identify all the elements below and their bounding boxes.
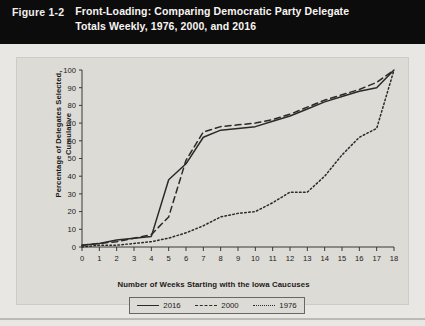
x-tick-label: 11 — [269, 254, 277, 263]
legend-label-2000: 2000 — [221, 301, 238, 310]
legend-swatch-dashed-icon — [195, 305, 217, 306]
y-tick-label: 50 — [68, 154, 76, 163]
x-tick-label: 6 — [184, 254, 188, 263]
legend-item-1976: 1976 — [253, 301, 296, 310]
y-tick-label: 60 — [68, 137, 76, 146]
x-tick-label: 14 — [320, 254, 328, 263]
x-tick-label: 12 — [286, 254, 294, 263]
x-tick-label: 9 — [236, 254, 240, 263]
line-chart: 0102030405060708090100012345678910111213… — [17, 58, 410, 306]
figure-title-line-1: Front-Loading: Comparing Democratic Part… — [75, 5, 349, 19]
y-tick-label: 20 — [68, 207, 76, 216]
y-tick-label: 80 — [68, 101, 76, 110]
legend-label-2016: 2016 — [163, 301, 180, 310]
legend-item-2016: 2016 — [137, 301, 180, 310]
figure-number: Figure 1-2 — [12, 5, 64, 18]
series-line-2016 — [82, 70, 394, 245]
x-tick-label: 15 — [338, 254, 346, 263]
legend-label-1976: 1976 — [279, 301, 296, 310]
x-tick-label: 2 — [115, 254, 119, 263]
x-tick-label: 16 — [355, 254, 363, 263]
x-tick-label: 10 — [251, 254, 259, 263]
legend-item-2000: 2000 — [195, 301, 238, 310]
chart-legend: 2016 2000 1976 — [129, 297, 305, 314]
page-divider — [0, 318, 425, 320]
x-tick-label: 4 — [149, 254, 153, 263]
figure-title-line-2: Totals Weekly, 1976, 2000, and 2016 — [75, 20, 349, 34]
figure-banner: Figure 1-2 Front-Loading: Comparing Demo… — [0, 0, 425, 44]
x-tick-label: 13 — [303, 254, 311, 263]
figure-body: Percentage of Delegates Selected, Cumula… — [0, 44, 425, 326]
y-tick-label: 100 — [63, 66, 76, 75]
x-tick-label: 0 — [80, 254, 84, 263]
y-tick-label: 40 — [68, 172, 76, 181]
x-tick-label: 5 — [167, 254, 171, 263]
y-tick-label: 0 — [72, 243, 76, 252]
x-tick-label: 17 — [372, 254, 380, 263]
figure-container: Figure 1-2 Front-Loading: Comparing Demo… — [0, 0, 425, 326]
series-line-1976 — [82, 70, 394, 247]
x-tick-label: 18 — [390, 254, 398, 263]
legend-swatch-dotted-icon — [253, 305, 275, 306]
y-tick-label: 30 — [68, 190, 76, 199]
series-line-2000 — [82, 70, 394, 245]
x-tick-label: 7 — [201, 254, 205, 263]
x-tick-label: 3 — [132, 254, 136, 263]
x-tick-label: 8 — [219, 254, 223, 263]
x-tick-label: 1 — [97, 254, 101, 263]
y-tick-label: 10 — [68, 225, 76, 234]
y-tick-label: 90 — [68, 84, 76, 93]
legend-swatch-solid-icon — [137, 305, 159, 306]
y-tick-label: 70 — [68, 119, 76, 128]
plot-panel: Percentage of Delegates Selected, Cumula… — [16, 57, 409, 305]
